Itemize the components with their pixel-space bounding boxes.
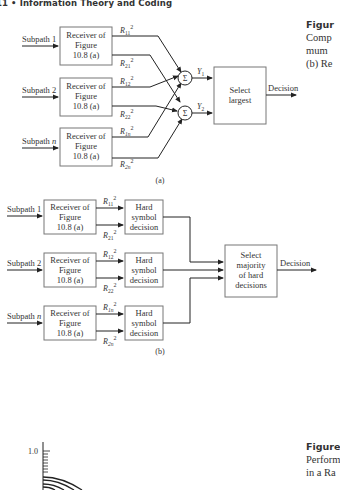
svg-text:R2n2: R2n2 xyxy=(102,335,116,347)
svg-text:Select: Select xyxy=(230,85,251,95)
svg-text:Subpath n: Subpath n xyxy=(7,311,41,321)
diagram-canvas: Subpath 1 Subpath 2 Subpath n Receiver o… xyxy=(0,0,340,490)
svg-text:Figure: Figure xyxy=(75,40,97,50)
svg-text:symbol: symbol xyxy=(131,318,157,328)
svg-text:symbol: symbol xyxy=(131,265,157,275)
svg-text:R222: R222 xyxy=(119,108,133,120)
svg-text:Select: Select xyxy=(241,250,262,260)
svg-text:Receiver of: Receiver of xyxy=(66,81,106,91)
svg-text:Y2: Y2 xyxy=(197,102,204,112)
r-squared-labels: R112 R212 R122 R222 R1n2 R2n2 xyxy=(119,24,133,170)
chart-fragment xyxy=(43,442,82,490)
svg-text:symbol: symbol xyxy=(131,212,157,222)
svg-text:Figure: Figure xyxy=(75,91,97,101)
figure-caption-bottom: Figure Perform in a Ra xyxy=(306,440,340,479)
svg-text:R112: R112 xyxy=(119,24,133,36)
y-tick-label: 1.0 xyxy=(28,447,38,456)
svg-text:Decision: Decision xyxy=(280,258,311,268)
svg-text:R212: R212 xyxy=(102,229,116,241)
svg-text:Subpath 1: Subpath 1 xyxy=(7,204,41,214)
subpath-label: Subpath n xyxy=(22,136,56,146)
svg-text:Figure: Figure xyxy=(59,265,81,275)
svg-text:decision: decision xyxy=(130,328,159,338)
subpath-label: Subpath 1 xyxy=(22,34,56,44)
svg-text:of hard: of hard xyxy=(239,270,264,280)
svg-text:R122: R122 xyxy=(102,248,116,260)
svg-text:R1n2: R1n2 xyxy=(102,301,116,313)
svg-text:R2n2: R2n2 xyxy=(119,158,133,170)
svg-text:10.8 (a): 10.8 (a) xyxy=(57,328,84,338)
svg-text:decision: decision xyxy=(130,222,159,232)
svg-text:10.8 (a): 10.8 (a) xyxy=(73,151,100,161)
svg-text:(b): (b) xyxy=(155,347,165,356)
svg-text:Figure: Figure xyxy=(59,318,81,328)
svg-text:Subpath 2: Subpath 2 xyxy=(7,258,41,268)
svg-text:decisions: decisions xyxy=(235,280,267,290)
svg-text:largest: largest xyxy=(229,95,252,105)
svg-text:decision: decision xyxy=(130,275,159,285)
svg-text:10.8 (a): 10.8 (a) xyxy=(73,50,100,60)
part-label: (a) xyxy=(156,176,165,185)
svg-text:R1n2: R1n2 xyxy=(119,125,133,137)
svg-text:10.8 (a): 10.8 (a) xyxy=(57,275,84,285)
svg-text:Receiver of: Receiver of xyxy=(50,202,90,212)
svg-text:R122: R122 xyxy=(119,75,133,87)
svg-text:R212: R212 xyxy=(119,57,133,69)
svg-text:Hard: Hard xyxy=(136,255,154,265)
svg-text:Hard: Hard xyxy=(136,308,154,318)
svg-text:Hard: Hard xyxy=(136,202,154,212)
svg-text:Receiver of: Receiver of xyxy=(66,131,106,141)
svg-text:R112: R112 xyxy=(102,195,116,207)
svg-text:Receiver of: Receiver of xyxy=(50,308,90,318)
subpath-label: Subpath 2 xyxy=(22,85,56,95)
svg-text:Y1: Y1 xyxy=(197,67,204,77)
sigma-icon: Σ xyxy=(183,74,188,83)
svg-text:Figure: Figure xyxy=(75,141,97,151)
svg-text:Receiver of: Receiver of xyxy=(50,255,90,265)
sigma-icon: Σ xyxy=(183,109,188,118)
figure-part-b xyxy=(7,200,316,340)
svg-text:R222: R222 xyxy=(102,282,116,294)
svg-text:10.8 (a): 10.8 (a) xyxy=(57,222,84,232)
svg-text:Receiver of: Receiver of xyxy=(66,30,106,40)
decision-label: Decision xyxy=(268,83,299,93)
svg-text:majority: majority xyxy=(237,260,267,270)
svg-text:Figure: Figure xyxy=(59,212,81,222)
figure-caption-top: Figur Comp mum (b) Re xyxy=(306,18,334,70)
svg-text:10.8 (a): 10.8 (a) xyxy=(73,101,100,111)
figure-part-a xyxy=(22,27,296,166)
